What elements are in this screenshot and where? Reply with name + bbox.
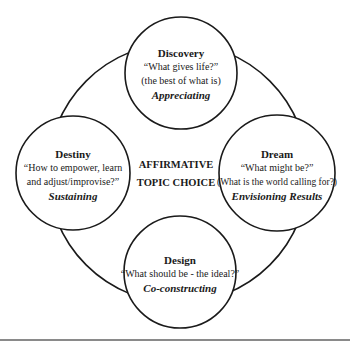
design-question: “What should be - the ideal?” [121,267,240,281]
discovery-verb: Appreciating [152,88,211,102]
center-line-1: AFFIRMATIVE [128,156,224,174]
dream-verb: Envisioning Results [232,189,323,203]
destiny-subquestion: and adjust/improvise?” [27,175,119,189]
destiny-question: “How to empower, learn [24,161,122,175]
discovery-subquestion: (the best of what is) [141,74,220,88]
discovery-title: Discovery [158,46,204,60]
discovery-node: Discovery “What gives life?” (the best o… [125,38,237,110]
dream-question: “What might be?” [241,161,314,175]
discovery-question: “What gives life?” [144,60,218,74]
design-title: Design [164,253,196,267]
horizontal-divider [0,339,350,341]
destiny-node: Destiny “How to empower, learn and adjus… [16,142,130,208]
dream-node: Dream “What might be?” (What is the worl… [214,139,340,211]
center-line-2: TOPIC CHOICE [128,174,224,192]
center-topic-label: AFFIRMATIVE TOPIC CHOICE [128,156,224,192]
destiny-title: Destiny [55,147,90,161]
design-verb: Co-constructing [143,281,216,295]
design-node: Design “What should be - the ideal?” Co-… [120,246,240,302]
dream-title: Dream [261,147,293,161]
dream-subquestion: (What is the world calling for?) [217,175,337,189]
destiny-verb: Sustaining [49,189,98,203]
